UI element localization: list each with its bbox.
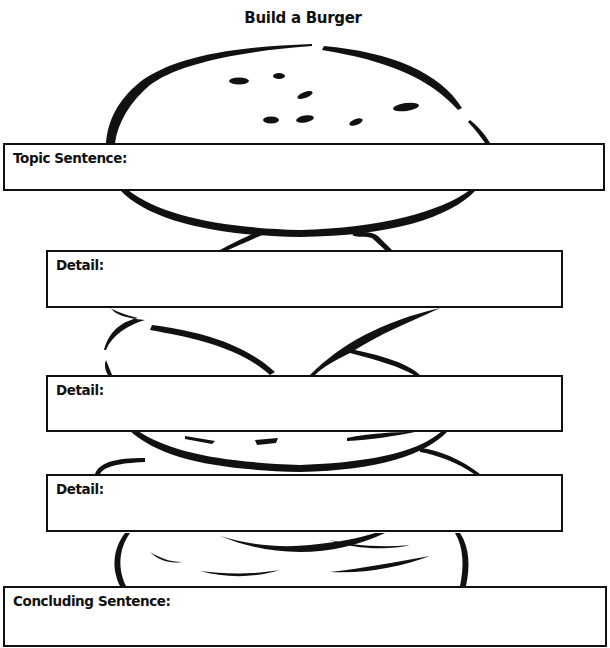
detail-label: Detail: — [56, 481, 104, 497]
top-bun-outline-right — [322, 46, 462, 110]
top-bun-outline-left — [106, 44, 312, 143]
top-bun-outline-right-lower — [468, 120, 490, 143]
concluding-sentence-box[interactable]: Concluding Sentence: — [3, 586, 607, 647]
burger-illustration — [0, 0, 610, 648]
detail-box-1[interactable]: Detail: — [46, 250, 563, 308]
detail-box-3[interactable]: Detail: — [46, 474, 563, 532]
concluding-sentence-label: Concluding Sentence: — [13, 593, 171, 609]
sesame-seed — [393, 101, 420, 113]
top-bun-base — [120, 190, 476, 237]
sesame-seed — [263, 117, 279, 124]
topic-sentence-box[interactable]: Topic Sentence: — [3, 143, 605, 191]
sesame-seed — [229, 78, 249, 85]
detail-label: Detail: — [56, 382, 104, 398]
sesame-seed — [296, 114, 315, 124]
sesame-seed — [348, 117, 363, 127]
sesame-seed — [296, 89, 313, 100]
detail-box-2[interactable]: Detail: — [46, 375, 563, 432]
topic-sentence-label: Topic Sentence: — [13, 150, 127, 166]
detail-label: Detail: — [56, 257, 104, 273]
sesame-seed — [273, 73, 285, 79]
